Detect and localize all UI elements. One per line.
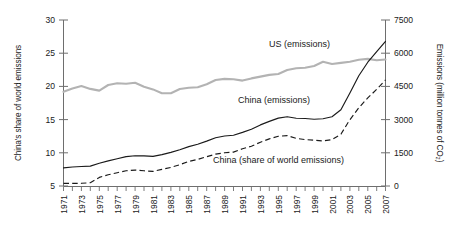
xtick-label-1983: 1983 [166,195,176,214]
xtick-label-1973: 1973 [77,195,87,214]
x-axis: 1971 1973 1975 1977 1979 1981 1983 1985 … [59,187,391,214]
right-tick-label-3000: 3000 [394,115,413,125]
xtick-label-1975: 1975 [95,195,105,214]
xtick-label-1999: 1999 [310,195,320,214]
xtick-label-1981: 1981 [149,195,159,214]
left-axis-title: China's share of world emissions [14,45,23,161]
right-axis: 0 1500 3000 4500 6000 7500 Emissions (mi… [381,15,444,191]
xtick-label-1993: 1993 [256,195,266,214]
left-tick-label-5: 5 [50,181,55,191]
left-tick-label-25: 25 [45,48,55,58]
series-annotations: US (emissions) China (emissions) China (… [213,39,344,165]
left-tick-label-30: 30 [45,15,55,25]
left-tick-label-20: 20 [45,81,55,91]
xtick-label-2003: 2003 [345,195,355,214]
left-tick-label-15: 15 [45,115,55,125]
left-axis: 5 10 15 20 25 30 China's share of world … [14,15,68,191]
xtick-label-1985: 1985 [184,195,194,214]
xtick-label-1995: 1995 [274,195,284,214]
right-tick-label-7500: 7500 [394,15,413,25]
annotation-china-emissions: China (emissions) [238,95,310,105]
right-tick-label-4500: 4500 [394,81,413,91]
right-tick-label-6000: 6000 [394,48,413,58]
xtick-label-1989: 1989 [220,195,230,214]
xtick-label-1987: 1987 [202,195,212,214]
xtick-label-2005: 2005 [363,195,373,214]
chart-figure: 5 10 15 20 25 30 China's share of world … [0,0,449,233]
xtick-label-2001: 2001 [328,195,338,214]
series-line-china-emissions [64,41,386,167]
xtick-label-1971: 1971 [59,195,69,214]
left-tick-label-10: 10 [45,148,55,158]
emissions-line-chart: 5 10 15 20 25 30 China's share of world … [0,0,449,233]
xtick-label-1977: 1977 [113,195,123,214]
x-axis-ticks [64,187,386,192]
x-axis-tick-labels: 1971 1973 1975 1977 1979 1981 1983 1985 … [59,195,391,214]
xtick-label-1979: 1979 [131,195,141,214]
annotation-china-share: China (share of world emissions) [213,155,344,165]
right-tick-label-0: 0 [394,181,399,191]
series-line-us-emissions [64,59,386,93]
xtick-label-1991: 1991 [238,195,248,214]
right-tick-label-1500: 1500 [394,148,413,158]
xtick-label-1997: 1997 [292,195,302,214]
series-line-china-share [64,80,386,183]
xtick-label-2007: 2007 [381,195,391,214]
annotation-us-emissions: US (emissions) [269,39,330,49]
right-axis-title: Emissions (million tonnes of CO₂) [435,44,444,163]
